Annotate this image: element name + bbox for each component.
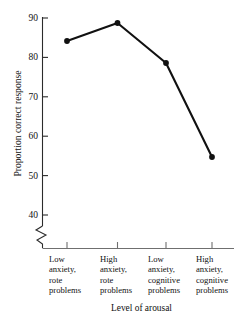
data-point	[64, 38, 70, 44]
x-tick-label-line: cognitive	[196, 275, 239, 285]
x-tick-label-line: anxiety,	[100, 264, 148, 274]
data-point	[209, 154, 215, 160]
x-tick-label-line: anxiety,	[148, 264, 198, 274]
x-tick-marks	[67, 242, 212, 249]
chart-figure: 90 80 70 60 50 40 Low anxiety, rote prob…	[0, 0, 239, 319]
x-tick-label-line: problems	[100, 285, 148, 295]
data-point	[115, 20, 121, 26]
x-tick-label-line: rote	[100, 275, 148, 285]
x-tick-label-0: Low anxiety, rote problems	[49, 254, 97, 296]
x-tick-label-3: High anxiety, cognitive problems	[196, 254, 239, 296]
x-tick-label-line: Low	[148, 254, 198, 264]
x-tick-label-line: anxiety,	[196, 264, 239, 274]
data-point	[163, 60, 169, 66]
data-series-line	[67, 23, 212, 157]
y-tick-label-40: 40	[16, 210, 38, 220]
x-tick-label-line: Low	[49, 254, 97, 264]
x-tick-label-line: cognitive	[148, 275, 198, 285]
x-tick-label-line: High	[100, 254, 148, 264]
x-tick-label-line: problems	[148, 285, 198, 295]
x-tick-label-line: problems	[196, 285, 239, 295]
axis-break-icon	[36, 226, 46, 248]
x-tick-label-2: Low anxiety, cognitive problems	[148, 254, 198, 296]
x-tick-label-line: problems	[49, 285, 97, 295]
x-axis-title: Level of arousal	[44, 303, 239, 313]
y-tick-marks	[43, 18, 49, 215]
x-tick-label-line: High	[196, 254, 239, 264]
x-tick-label-1: High anxiety, rote problems	[100, 254, 148, 296]
x-tick-label-line: rote	[49, 275, 97, 285]
y-tick-label-90: 90	[16, 13, 38, 23]
y-axis-title: Proportion correct response	[12, 49, 23, 199]
x-tick-label-line: anxiety,	[49, 264, 97, 274]
